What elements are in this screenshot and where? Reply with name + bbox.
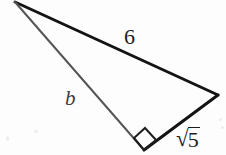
side-length-label-sqrt5: √5 — [176, 127, 200, 151]
radicand-value: 5 — [188, 127, 200, 151]
right-angle-marker — [134, 128, 156, 150]
side-length-label-6: 6 — [124, 26, 135, 48]
triangle-figure: 6 b √5 — [0, 0, 226, 155]
triangle-side-a-line — [15, 2, 218, 95]
side-length-label-b: b — [65, 88, 76, 109]
